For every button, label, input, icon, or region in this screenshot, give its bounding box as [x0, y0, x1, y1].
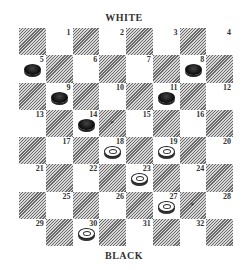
square-number: 13	[36, 110, 44, 119]
dark-square	[126, 28, 153, 55]
square-number: 2	[120, 28, 124, 37]
square-6[interactable]: 6	[73, 55, 100, 82]
square-number: 8	[200, 55, 204, 64]
dark-square	[180, 28, 207, 55]
black-checker-piece[interactable]	[158, 92, 175, 103]
square-number: 11	[170, 83, 178, 92]
dark-square	[99, 55, 126, 82]
square-number: 3	[174, 28, 178, 37]
square-1[interactable]: 1	[46, 28, 73, 55]
black-checker-piece[interactable]	[78, 119, 95, 130]
dark-square	[206, 164, 233, 191]
square-number: 27	[170, 192, 178, 201]
dark-square	[99, 164, 126, 191]
dark-square	[99, 219, 126, 246]
black-checker-piece[interactable]	[51, 92, 68, 103]
square-number: 25	[63, 192, 71, 201]
square-number: 9	[67, 83, 71, 92]
square-13[interactable]: 13	[19, 110, 46, 137]
square-number: 16	[196, 110, 204, 119]
dark-square	[73, 137, 100, 164]
square-number: 26	[116, 192, 124, 201]
dark-square	[126, 83, 153, 110]
square-26[interactable]: 26	[99, 192, 126, 219]
dark-square	[206, 55, 233, 82]
white-checker-piece[interactable]	[158, 201, 175, 212]
square-number: 17	[63, 137, 71, 146]
dark-square	[153, 219, 180, 246]
square-22[interactable]: 22	[73, 164, 100, 191]
dark-square	[46, 55, 73, 82]
square-number: 5	[40, 55, 44, 64]
square-25[interactable]: 25	[46, 192, 73, 219]
square-number: 24	[196, 164, 204, 173]
square-15[interactable]: 15	[126, 110, 153, 137]
square-number: 30	[89, 219, 97, 228]
square-21[interactable]: 21	[19, 164, 46, 191]
square-9[interactable]: 9	[46, 83, 73, 110]
square-17[interactable]: 17	[46, 137, 73, 164]
dark-square	[46, 110, 73, 137]
dark-square	[180, 83, 207, 110]
square-number: 29	[36, 219, 44, 228]
square-number: 28	[223, 192, 231, 201]
square-14[interactable]: 14	[73, 110, 100, 137]
square-16[interactable]: 16	[180, 110, 207, 137]
dark-square	[19, 137, 46, 164]
square-number: 31	[143, 219, 151, 228]
square-19[interactable]: 19	[153, 137, 180, 164]
square-31[interactable]: 31	[126, 219, 153, 246]
square-number: 12	[223, 83, 231, 92]
square-number: 1	[67, 28, 71, 37]
square-29[interactable]: 29	[19, 219, 46, 246]
square-number: 7	[147, 55, 151, 64]
dark-square	[73, 83, 100, 110]
square-27[interactable]: 27	[153, 192, 180, 219]
square-18[interactable]: 18	[99, 137, 126, 164]
dark-square	[46, 219, 73, 246]
white-checker-piece[interactable]	[158, 146, 175, 157]
square-28[interactable]: 28	[206, 192, 233, 219]
square-3[interactable]: 3	[153, 28, 180, 55]
square-5[interactable]: 5	[19, 55, 46, 82]
square-number: 20	[223, 137, 231, 146]
dark-square	[180, 137, 207, 164]
square-number: 14	[89, 110, 97, 119]
square-2[interactable]: 2	[99, 28, 126, 55]
square-32[interactable]: 32	[180, 219, 207, 246]
square-number: 19	[170, 137, 178, 146]
square-8[interactable]: 8	[180, 55, 207, 82]
square-4[interactable]: 4	[206, 28, 233, 55]
square-number: 22	[89, 164, 97, 173]
dark-square	[73, 28, 100, 55]
white-side-label: WHITE	[0, 12, 248, 23]
dark-square	[126, 137, 153, 164]
square-7[interactable]: 7	[126, 55, 153, 82]
square-number: 32	[196, 219, 204, 228]
square-10[interactable]: 10	[99, 83, 126, 110]
square-number: 23	[143, 164, 151, 173]
white-checker-piece[interactable]	[78, 228, 95, 239]
square-24[interactable]: 24	[180, 164, 207, 191]
dark-square	[153, 110, 180, 137]
dark-square	[153, 55, 180, 82]
square-number: 6	[93, 55, 97, 64]
square-12[interactable]: 12	[206, 83, 233, 110]
square-number: 4	[227, 28, 231, 37]
square-23[interactable]: 23	[126, 164, 153, 191]
square-number: 10	[116, 83, 124, 92]
white-checker-piece[interactable]	[131, 173, 148, 184]
dark-square	[46, 164, 73, 191]
asterisk-mark: *	[110, 119, 114, 127]
black-checker-piece[interactable]	[185, 64, 202, 75]
square-20[interactable]: 20	[206, 137, 233, 164]
asterisk-mark: *	[191, 201, 195, 209]
black-checker-piece[interactable]	[24, 64, 41, 75]
dark-square	[19, 83, 46, 110]
white-checker-piece[interactable]	[104, 146, 121, 157]
dark-square	[126, 192, 153, 219]
dark-square	[206, 219, 233, 246]
square-11[interactable]: 11	[153, 83, 180, 110]
checkers-board: 1234567891011121314151617181920212223242…	[19, 28, 233, 246]
square-30[interactable]: 30	[73, 219, 100, 246]
